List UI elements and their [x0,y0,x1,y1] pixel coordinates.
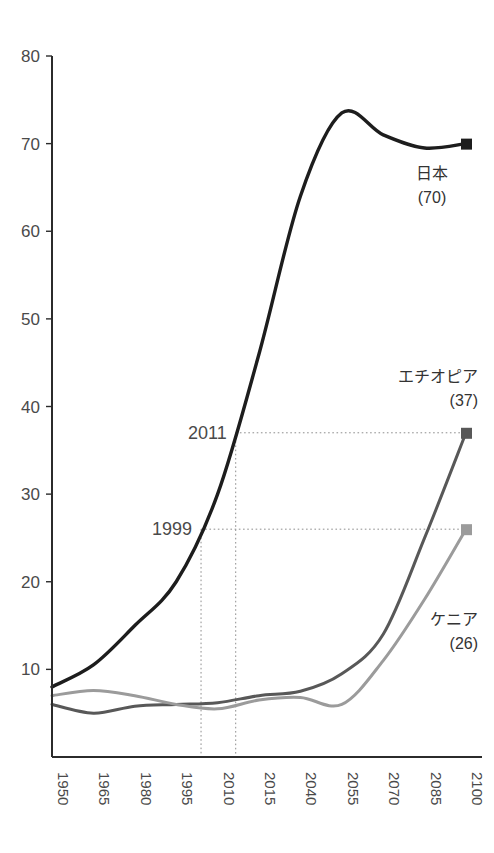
x-tick-label: 1980 [138,772,155,805]
series-line-1 [52,111,466,687]
x-tick: 1980 [138,772,155,805]
x-tick-label: 2085 [428,772,445,805]
x-tick-label: 2015 [262,772,279,805]
chart-container: 1020304050607080 19501965198019952010201… [0,0,494,853]
series-endpoint-marker [461,139,472,150]
series-label-group: 日本(70) [416,165,448,206]
series-label-group: エチオピア(37) [398,368,478,409]
y-tick-label: 10 [21,660,40,679]
x-tick: 2040 [303,772,320,805]
x-tick-label: 1965 [96,772,113,805]
y-tick-label: 80 [21,47,40,66]
x-tick: 2085 [428,772,445,805]
x-tick: 2070 [386,772,403,805]
x-tick-label: 1995 [179,772,196,805]
line-chart: 1020304050607080 19501965198019952010201… [0,0,494,853]
series-name-label: 日本 [416,165,448,182]
x-tick-label: 2070 [386,772,403,805]
series-name-label: ケニア [430,611,478,628]
annotation-label: 2011 [188,423,227,443]
y-tick-label: 20 [21,573,40,592]
x-tick: 2010 [221,772,238,805]
x-tick-label: 2100 [469,772,486,805]
x-tick: 1950 [55,772,72,805]
x-tick: 2100 [469,772,486,805]
x-axis: 1950196519801995201020152040205520702085… [55,772,486,805]
x-tick-label: 2010 [221,772,238,805]
y-tick-label: 50 [21,310,40,329]
y-tick-label: 60 [21,222,40,241]
series-value-label: (70) [418,189,446,206]
y-tick-label: 30 [21,485,40,504]
x-tick-label: 2055 [345,772,362,805]
series-value-label: (26) [450,635,478,652]
x-tick: 1995 [179,772,196,805]
series-label-group: ケニア(26) [430,611,478,652]
x-tick: 2055 [345,772,362,805]
x-tick: 2015 [262,772,279,805]
y-tick-label: 40 [21,398,40,417]
series-lines [52,111,472,714]
series-name-label: エチオピア [398,368,478,385]
x-tick-label: 2040 [303,772,320,805]
series-line-2 [52,433,466,713]
x-tick-label: 1950 [55,772,72,805]
series-value-label: (37) [450,392,478,409]
y-tick-label: 70 [21,135,40,154]
series-endpoint-marker [461,524,472,535]
series-endpoint-marker [461,428,472,439]
series-line-3 [52,529,466,709]
annotation-label: 1999 [152,519,192,539]
y-axis: 1020304050607080 [21,47,52,679]
x-tick: 1965 [96,772,113,805]
